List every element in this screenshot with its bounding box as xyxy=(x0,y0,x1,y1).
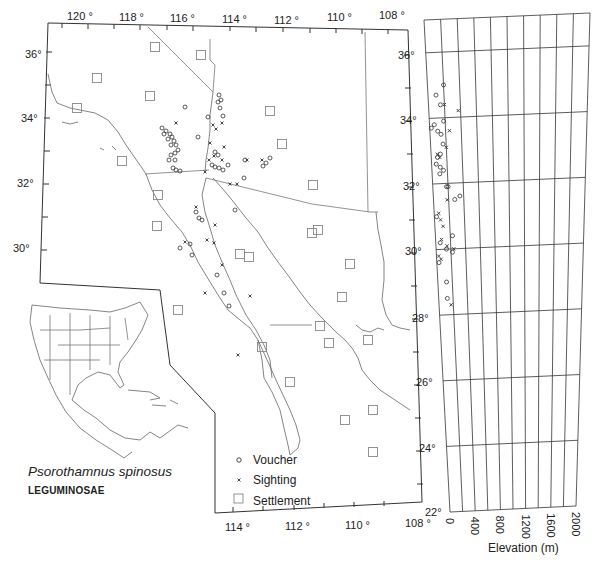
lon-label-top: 114 ° xyxy=(222,13,247,25)
settlement-marker xyxy=(93,74,102,83)
settlement-marker xyxy=(325,339,334,348)
square-icon xyxy=(232,493,246,508)
elevation-axis-title: Elevation (m) xyxy=(488,541,559,555)
voucher-point xyxy=(437,261,441,265)
voucher-marker xyxy=(221,114,225,118)
elevation-tick-label: 0 xyxy=(444,518,456,524)
voucher-marker xyxy=(217,166,221,170)
voucher-marker xyxy=(215,273,219,277)
voucher-point xyxy=(438,241,442,245)
settlement-marker xyxy=(346,260,355,269)
lon-label-top: 112 ° xyxy=(274,14,299,26)
voucher-point xyxy=(445,280,449,284)
settlement-marker xyxy=(316,322,325,331)
elevation-gridline-vertical xyxy=(507,17,513,510)
sighting-point xyxy=(440,238,443,241)
lat-label-right: 24° xyxy=(419,442,436,454)
voucher-point xyxy=(432,123,436,127)
voucher-marker xyxy=(261,164,265,168)
settlement-marker xyxy=(236,250,245,259)
sighting-point xyxy=(439,258,442,261)
voucher-marker xyxy=(174,168,178,172)
settlement-marker xyxy=(341,416,350,425)
voucher-marker xyxy=(217,93,221,97)
voucher-marker xyxy=(216,100,220,104)
voucher-marker xyxy=(218,106,222,110)
voucher-marker xyxy=(178,169,182,173)
species-name: Psorothamnus spinosus xyxy=(28,464,172,479)
lat-label-left: 34° xyxy=(21,112,38,124)
lat-label-right: 34° xyxy=(400,114,417,126)
sighting-point xyxy=(439,218,442,221)
sighting-marker xyxy=(214,224,217,227)
state-borders xyxy=(145,27,378,325)
settlement-marker xyxy=(151,43,160,52)
settlement-marker xyxy=(309,181,318,190)
voucher-marker xyxy=(226,163,230,167)
elevation-tick-label: 800 xyxy=(494,516,506,534)
voucher-point xyxy=(438,172,442,176)
sighting-marker xyxy=(236,183,239,186)
sighting-marker xyxy=(215,128,218,131)
voucher-point xyxy=(441,142,445,146)
voucher-marker xyxy=(173,151,177,155)
lon-label-top: 120 ° xyxy=(67,10,93,22)
sighting-point xyxy=(450,303,453,306)
voucher-point xyxy=(453,197,457,201)
elevation-tick-label: 1200 xyxy=(520,514,532,538)
legend-sighting: Sighting xyxy=(232,473,296,487)
voucher-marker xyxy=(196,135,200,139)
lat-label-right: 32° xyxy=(403,180,420,192)
voucher-marker xyxy=(227,304,231,308)
coastlines xyxy=(48,74,410,455)
settlement-marker xyxy=(174,306,183,315)
lat-label-right: 28° xyxy=(412,312,429,324)
voucher-marker xyxy=(170,135,174,139)
sighting-point xyxy=(437,254,440,257)
voucher-marker xyxy=(178,246,182,250)
elevation-gridline-vertical xyxy=(490,17,500,509)
elevation-tick-label: 2000 xyxy=(570,512,582,536)
settlement-marker xyxy=(118,157,127,166)
voucher-marker xyxy=(222,291,226,295)
voucher-marker xyxy=(172,139,176,143)
voucher-point xyxy=(434,162,438,166)
voucher-point xyxy=(451,234,455,238)
settlement-marker xyxy=(73,104,82,113)
lat-label-left: 32° xyxy=(17,177,34,189)
lat-label-right: 36° xyxy=(398,49,415,61)
lon-label-top: 118 ° xyxy=(119,11,144,23)
settlement-marker xyxy=(245,253,254,262)
sighting-marker xyxy=(213,155,216,158)
voucher-marker xyxy=(216,153,220,157)
lat-label-left: 30° xyxy=(13,242,30,254)
voucher-marker xyxy=(174,143,178,147)
voucher-point xyxy=(458,194,462,198)
lat-label-right: 26° xyxy=(416,376,433,388)
voucher-marker xyxy=(194,210,198,214)
voucher-point xyxy=(438,165,442,169)
elevation-gridline-vertical xyxy=(576,13,590,506)
lon-label-bottom: 108 ° xyxy=(405,517,431,529)
settlement-marker xyxy=(146,92,155,101)
sighting-marker xyxy=(208,159,211,162)
lon-label-top: 108 ° xyxy=(379,9,405,21)
sighting-point xyxy=(448,129,451,132)
lon-label-bottom: 110 ° xyxy=(345,519,370,531)
settlement-marker xyxy=(369,406,378,415)
elevation-gridline-vertical xyxy=(551,14,557,507)
sighting-marker xyxy=(204,292,207,295)
voucher-point xyxy=(436,129,440,133)
sighting-marker xyxy=(195,206,198,209)
lon-label-top: 110 ° xyxy=(327,11,352,23)
voucher-marker xyxy=(167,158,171,162)
map-records xyxy=(160,93,272,357)
sighting-marker xyxy=(175,122,178,125)
settlement-marker xyxy=(266,107,275,116)
sighting-marker xyxy=(212,124,215,127)
sighting-marker xyxy=(184,241,187,244)
voucher-marker xyxy=(206,115,210,119)
voucher-marker xyxy=(169,153,173,157)
voucher-marker xyxy=(213,165,217,169)
voucher-marker xyxy=(169,143,173,147)
